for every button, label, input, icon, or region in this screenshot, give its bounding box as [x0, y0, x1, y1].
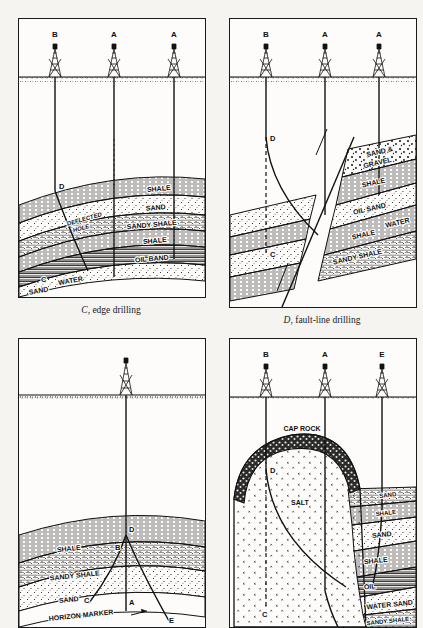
- panel-e-horizon-marker-drilling: D B C A E SHALE SANDY SHALE SAND HORIZON…: [18, 338, 206, 628]
- well-label-a1: A: [322, 30, 328, 39]
- well-label-b: B: [263, 30, 269, 39]
- point-label-c: C: [270, 250, 276, 259]
- caption-c-text: , edge drilling: [88, 305, 141, 315]
- well-label-a2: A: [376, 30, 382, 39]
- cap-rock-label: CAP ROCK: [283, 425, 320, 432]
- well-label-e: E: [379, 350, 385, 359]
- panel-c-edge-drilling: B A A D C DEFLECTED HOLE SHALE SAND SAND…: [18, 18, 206, 298]
- well-label-a2: A: [171, 30, 177, 39]
- derrick-a1: [319, 44, 331, 77]
- derrick-b: [49, 44, 61, 77]
- well-label-a1: A: [111, 30, 117, 39]
- point-label-d: D: [270, 466, 276, 475]
- point-label-a: A: [129, 598, 135, 607]
- caption-d: D, fault-line drilling: [229, 315, 415, 325]
- point-label-e: E: [169, 616, 174, 625]
- point-label-c: C: [84, 596, 90, 605]
- flank-label-oil: OIL: [364, 582, 377, 590]
- point-label-b: B: [115, 543, 121, 552]
- derrick-a: [319, 364, 331, 397]
- ground-texture: [230, 397, 416, 401]
- well-label-a: A: [322, 350, 328, 359]
- strata-downthrown: [230, 195, 316, 301]
- ground-texture: [19, 395, 205, 399]
- point-label-c: C: [262, 610, 268, 619]
- caption-c: C, edge drilling: [18, 305, 204, 315]
- panel-d-fault-line-drilling: B A A D C SAND & GRAVEL SHALE OIL SAND W…: [229, 18, 417, 308]
- derrick-b: [260, 44, 272, 77]
- point-label-d: D: [270, 134, 276, 143]
- strata-group: [19, 177, 205, 297]
- ground-texture: [19, 77, 205, 82]
- derrick-a2: [168, 44, 180, 77]
- point-label-d: D: [129, 525, 135, 534]
- point-label-c: C: [41, 275, 47, 284]
- ground-texture: [230, 77, 416, 82]
- panel-f-salt-dome-drilling: B A E D C CAP ROCK SALT SAND SHALE SAND …: [229, 338, 417, 628]
- caption-d-text: , fault-line drilling: [290, 315, 360, 325]
- well-label-b: B: [263, 350, 269, 359]
- derrick-b: [260, 364, 272, 397]
- derrick-a2: [373, 44, 385, 77]
- derrick-center: [120, 358, 132, 395]
- salt-label: SALT: [291, 499, 309, 506]
- derrick-e: [376, 364, 388, 397]
- point-label-d: D: [59, 182, 65, 191]
- well-label-b: B: [52, 30, 58, 39]
- derrick-a1: [108, 44, 120, 77]
